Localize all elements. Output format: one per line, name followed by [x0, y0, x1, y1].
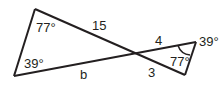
angle-label-right-top: 39°: [199, 34, 219, 49]
angle-label-left-top: 77°: [36, 20, 56, 35]
side-label-3: 3: [148, 65, 155, 80]
angle-label-right-bottom: 77°: [170, 54, 190, 69]
crossing-line-top-left-to-bottom-right: [35, 9, 185, 75]
angle-label-left-bottom: 39°: [24, 56, 44, 71]
side-label-4: 4: [155, 33, 162, 48]
side-label-b: b: [80, 67, 87, 82]
side-label-15: 15: [92, 18, 106, 33]
bowtie-triangles-diagram: 77° 39° 15 b 4 3 39° 77°: [0, 0, 223, 86]
